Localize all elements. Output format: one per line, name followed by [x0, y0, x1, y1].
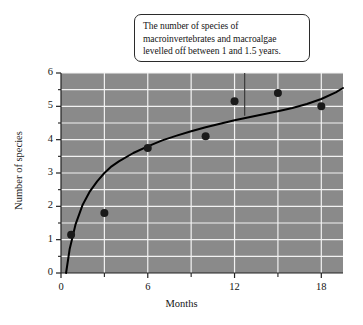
y-axis-tick-label: 0	[29, 266, 53, 277]
annotation-callout: The number of species of macroinvertebra…	[134, 14, 310, 62]
data-point	[274, 89, 282, 97]
y-axis-tick-label: 4	[29, 133, 53, 144]
y-axis-tick-label: 3	[29, 166, 53, 177]
y-axis-tick-label: 5	[29, 99, 53, 110]
data-point	[67, 231, 75, 239]
y-axis-tick-label: 6	[29, 66, 53, 77]
data-point	[317, 102, 325, 110]
data-point	[100, 209, 108, 217]
data-point	[202, 132, 210, 140]
chart-figure: 0123456 061218 Months Number of species …	[0, 0, 363, 325]
data-point	[231, 97, 239, 105]
x-axis-tick-label: 0	[46, 281, 76, 292]
x-axis-tick-label: 12	[220, 281, 250, 292]
x-axis-title: Months	[0, 298, 363, 309]
data-point	[144, 144, 152, 152]
x-axis-tick-label: 6	[133, 281, 163, 292]
x-axis-tick-label: 18	[306, 281, 336, 292]
annotation-callout-text: The number of species of macroinvertebra…	[143, 20, 302, 58]
y-axis-tick-label: 2	[29, 199, 53, 210]
y-axis-tick-label: 1	[29, 233, 53, 244]
y-axis-title: Number of species	[13, 111, 24, 231]
